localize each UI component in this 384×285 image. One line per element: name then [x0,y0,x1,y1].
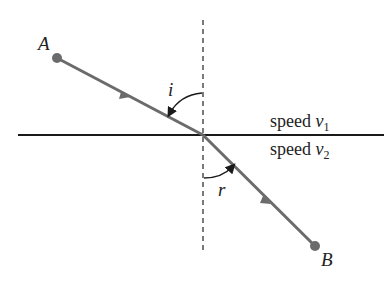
point-a [52,53,62,63]
label-angle-r: r [218,179,226,200]
angle-i-arc [170,93,202,113]
label-a: A [36,33,50,54]
label-speed-v2: speed v2 [270,139,329,162]
label-angle-i: i [168,79,173,100]
refraction-diagram: A B i r speed v1 speed v2 [0,0,384,285]
label-b: B [321,249,333,270]
label-speed-v1: speed v1 [270,111,329,134]
incident-ray [57,58,203,135]
angle-r-arc [204,167,232,178]
point-b [310,241,320,251]
